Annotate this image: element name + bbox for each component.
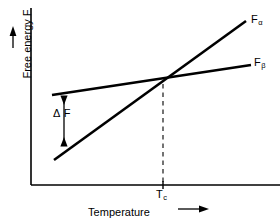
x-tick-label-base: T bbox=[156, 188, 163, 200]
x-tick-label-tc: Tc bbox=[156, 189, 167, 202]
curve-label-beta-base: F bbox=[254, 56, 261, 68]
y-axis-arrow-icon bbox=[10, 26, 17, 48]
curve-label-alpha: Fα bbox=[251, 14, 262, 27]
x-axis-title-container: Temperature bbox=[0, 202, 280, 218]
x-tick-label-subscript: c bbox=[163, 193, 167, 202]
delta-f-label: Δ F bbox=[53, 108, 71, 119]
curve-label-alpha-subscript: α bbox=[258, 18, 263, 27]
curve-label-beta: Fβ bbox=[254, 57, 265, 70]
curve-label-alpha-base: F bbox=[251, 13, 258, 25]
free-energy-diagram: Fα Fβ Δ F Tc Temperature Free energy F bbox=[0, 0, 280, 218]
y-axis-title: Free energy F bbox=[22, 9, 33, 110]
plot-canvas bbox=[0, 0, 280, 218]
curve-label-beta-subscript: β bbox=[261, 61, 266, 70]
y-axis-title-container: Free energy F bbox=[17, 0, 33, 140]
delta-f-arrow bbox=[60, 96, 67, 147]
x-axis-title: Temperature bbox=[88, 207, 192, 218]
